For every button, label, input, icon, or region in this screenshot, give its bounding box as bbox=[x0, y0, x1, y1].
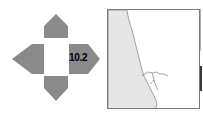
zoom-level-label: 10.2 bbox=[69, 52, 87, 63]
scale-bar bbox=[200, 66, 202, 91]
center-button[interactable] bbox=[44, 44, 69, 74]
map-view[interactable] bbox=[107, 9, 200, 109]
arrow-down-icon[interactable] bbox=[44, 76, 68, 101]
arrow-left-icon[interactable] bbox=[12, 44, 44, 74]
navigation-pad: 10.2 bbox=[0, 0, 100, 113]
scale-line bbox=[200, 9, 201, 51]
arrow-up-icon[interactable] bbox=[44, 14, 68, 38]
land-area bbox=[108, 10, 157, 109]
